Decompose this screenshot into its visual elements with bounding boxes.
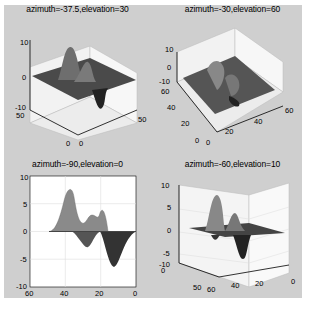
svg-text:0: 0 [23,227,27,236]
svg-text:0: 0 [66,139,70,148]
svg-text:50: 50 [193,283,201,292]
svg-text:-5: -5 [163,249,170,258]
svg-text:60: 60 [25,289,33,298]
subplot-3-axes: 10 5 0 -5 -10 60 40 20 0 [0,155,155,310]
svg-text:0: 0 [22,73,26,82]
svg-text:0: 0 [167,63,171,72]
svg-text:40: 40 [231,281,239,290]
svg-text:40: 40 [254,117,262,126]
svg-text:10: 10 [165,45,173,54]
subplot-4: azimuth=-60,elevation=10 10 5 0 -5 -10 0… [155,155,310,310]
subplot-2-axes: 10 0 -10 60 40 20 0 0 20 40 60 [155,0,311,155]
svg-text:50: 50 [16,111,24,120]
svg-text:50: 50 [138,115,146,124]
subplot-3: azimuth=-90,elevation=0 10 5 0 -5 -10 60… [0,155,155,310]
svg-text:20: 20 [255,279,263,288]
subplot-1-axes: 10 0 -10 50 0 0 50 [0,0,155,155]
subplot-1: azimuth=-37.5,elevation=30 10 0 -10 50 0… [0,0,155,155]
svg-text:40: 40 [60,289,68,298]
svg-text:20: 20 [95,289,103,298]
svg-text:40: 40 [167,103,175,112]
svg-text:10: 10 [161,181,169,190]
svg-text:60: 60 [161,87,169,96]
svg-text:5: 5 [23,200,27,209]
svg-text:10: 10 [20,173,28,182]
svg-text:0: 0 [79,139,83,148]
svg-text:60: 60 [285,106,293,115]
svg-text:0: 0 [195,136,199,145]
svg-text:10: 10 [20,38,28,47]
svg-text:-5: -5 [20,255,27,264]
svg-text:20: 20 [225,127,233,136]
svg-text:-10: -10 [159,77,170,86]
subplot-4-axes: 10 5 0 -5 -10 0 50 60 40 20 0 [155,155,311,310]
svg-text:0: 0 [133,289,137,298]
svg-text:0: 0 [206,138,210,147]
svg-text:0: 0 [167,226,171,235]
subplot-2: azimuth=-30,elevation=60 10 0 -10 60 40 … [155,0,310,155]
svg-text:60: 60 [207,285,215,294]
svg-text:5: 5 [167,203,171,212]
svg-text:0: 0 [291,277,295,286]
svg-text:20: 20 [181,119,189,128]
svg-text:0: 0 [161,266,165,275]
